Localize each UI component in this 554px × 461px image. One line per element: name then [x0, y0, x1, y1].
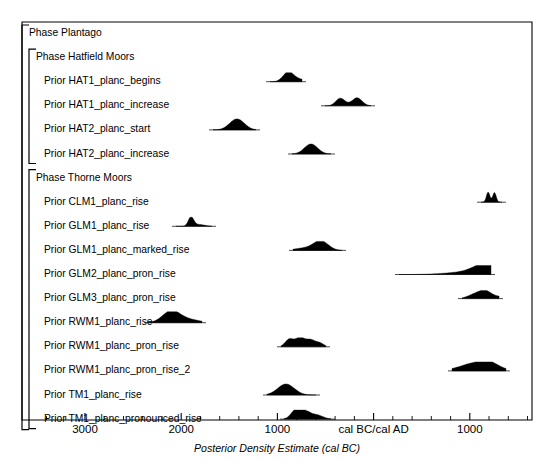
chart-canvas: Phase PlantagoPhase Hatfield MoorsPrior …: [0, 0, 554, 461]
distribution-area: [452, 362, 506, 371]
x-tick-label: 1000: [265, 423, 291, 435]
prior-label: Prior GLM1_planc_marked_rise: [44, 244, 190, 255]
distribution-area: [281, 338, 326, 347]
distribution-area: [481, 192, 502, 202]
density-distribution: [266, 73, 306, 82]
density-distribution: [477, 192, 506, 202]
x-tick-label: cal BC/cal AD: [338, 423, 408, 435]
prior-label: Prior TM1_planc_rise: [44, 389, 142, 400]
rows-layer: Phase PlantagoPhase Hatfield MoorsPrior …: [22, 25, 510, 430]
prior-row: Prior GLM3_planc_pron_rise: [44, 291, 503, 304]
prior-row: Prior HAT1_planc_begins: [44, 73, 306, 87]
density-distribution: [321, 98, 375, 106]
prior-label: Prior RWM1_planc_pron_rise_2: [44, 364, 191, 375]
prior-row: Prior TM1_planc_pronounced_rise: [44, 410, 335, 424]
prior-label: Prior TM1_planc_pronounced_rise: [44, 413, 202, 424]
prior-label: Prior GLM1_planc_rise: [44, 220, 150, 231]
phase-label: Phase Hatfield Moors: [36, 51, 134, 62]
prior-row: Prior GLM1_planc_marked_rise: [44, 241, 346, 255]
prior-row: Prior RWM1_planc_pron_rise_2: [44, 362, 510, 376]
x-tick-label: 3000: [72, 423, 98, 435]
distribution-area: [213, 119, 256, 130]
density-distribution: [395, 266, 495, 275]
distribution-area: [325, 98, 371, 106]
distribution-area: [399, 266, 491, 275]
prior-label: Prior HAT1_planc_increase: [44, 99, 169, 110]
distribution-area: [176, 217, 212, 226]
distribution-area: [267, 384, 316, 395]
prior-row: Prior HAT2_planc_increase: [44, 144, 335, 159]
posterior-density-plot: Phase PlantagoPhase Hatfield MoorsPrior …: [0, 0, 554, 461]
density-distribution: [209, 119, 260, 130]
x-tick-label: 2000: [168, 423, 194, 435]
phase-group-row: Phase Hatfield Moors: [36, 51, 134, 62]
density-distribution: [288, 144, 335, 154]
prior-row: Prior GLM2_planc_pron_rise: [44, 266, 495, 280]
prior-label: Prior GLM3_planc_pron_rise: [44, 292, 176, 303]
prior-label: Prior HAT1_planc_begins: [44, 75, 161, 86]
phase-bracket: [22, 25, 29, 430]
phase-bracket: [29, 49, 36, 163]
prior-row: Prior GLM1_planc_rise: [44, 217, 216, 231]
prior-label: Prior RWM1_planc_pron_rise: [44, 340, 179, 351]
distribution-area: [462, 291, 499, 299]
density-distribution: [280, 410, 335, 419]
distribution-area: [148, 312, 202, 323]
prior-label: Prior HAT2_planc_increase: [44, 148, 169, 159]
distribution-area: [293, 241, 342, 250]
phase-label: Phase Plantago: [29, 27, 102, 38]
x-tick-label: 1000: [457, 423, 483, 435]
prior-row: Prior HAT1_planc_increase: [44, 98, 375, 111]
prior-label: Prior HAT2_planc_start: [44, 123, 150, 134]
prior-label: Prior CLM1_planc_rise: [44, 196, 149, 207]
prior-row: Prior RWM1_planc_pron_rise: [44, 338, 330, 352]
phase-bracket: [29, 170, 36, 429]
density-distribution: [144, 312, 206, 323]
prior-label: Prior GLM2_planc_pron_rise: [44, 268, 176, 279]
phase-group-row: Phase Thorne Moors: [36, 172, 132, 183]
density-distribution: [458, 291, 503, 299]
distribution-area: [284, 410, 331, 419]
distribution-area: [270, 73, 302, 82]
phase-label: Phase Thorne Moors: [36, 172, 132, 183]
prior-row: Prior HAT2_planc_start: [44, 119, 260, 135]
prior-row: Prior TM1_planc_rise: [44, 384, 320, 400]
phase-group-row: Phase Plantago: [29, 27, 102, 38]
density-distribution: [289, 241, 346, 250]
distribution-area: [292, 144, 331, 154]
prior-row: Prior RWM1_planc_rise: [44, 312, 206, 328]
axis-title: Posterior Density Estimate (cal BC): [194, 442, 360, 454]
density-distribution: [172, 217, 216, 226]
prior-label: Prior RWM1_planc_rise: [44, 316, 153, 327]
density-distribution: [263, 384, 320, 395]
prior-row: Prior CLM1_planc_rise: [44, 192, 506, 206]
density-distribution: [277, 338, 330, 347]
density-distribution: [448, 362, 510, 371]
